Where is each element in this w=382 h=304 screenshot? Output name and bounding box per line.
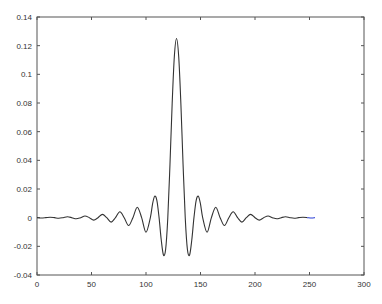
plot-frame (37, 17, 364, 275)
y-tick-label: 0.02 (16, 185, 32, 194)
series-line (37, 39, 307, 256)
y-tick-label: 0.06 (16, 128, 32, 137)
y-tick-label: 0.1 (21, 70, 33, 79)
x-tick-label: 100 (139, 280, 153, 289)
y-tick-label: 0.14 (16, 13, 32, 22)
y-tick-label: 0 (28, 214, 33, 223)
x-tick-label: 50 (87, 280, 96, 289)
y-tick-label: -0.02 (14, 242, 33, 251)
y-tick-label: -0.04 (14, 271, 33, 280)
y-axis: -0.04-0.0200.020.040.060.080.10.120.14 (14, 13, 364, 280)
y-tick-label: 0.08 (16, 99, 32, 108)
x-axis: 050100150200250300 (35, 17, 371, 289)
line-chart: 050100150200250300 -0.04-0.0200.020.040.… (0, 0, 382, 304)
x-tick-label: 250 (303, 280, 317, 289)
x-tick-label: 150 (194, 280, 208, 289)
x-tick-label: 300 (357, 280, 371, 289)
y-tick-label: 0.12 (16, 42, 32, 51)
data-series (37, 39, 315, 256)
x-tick-label: 200 (248, 280, 262, 289)
y-tick-label: 0.04 (16, 156, 32, 165)
x-tick-label: 0 (35, 280, 40, 289)
